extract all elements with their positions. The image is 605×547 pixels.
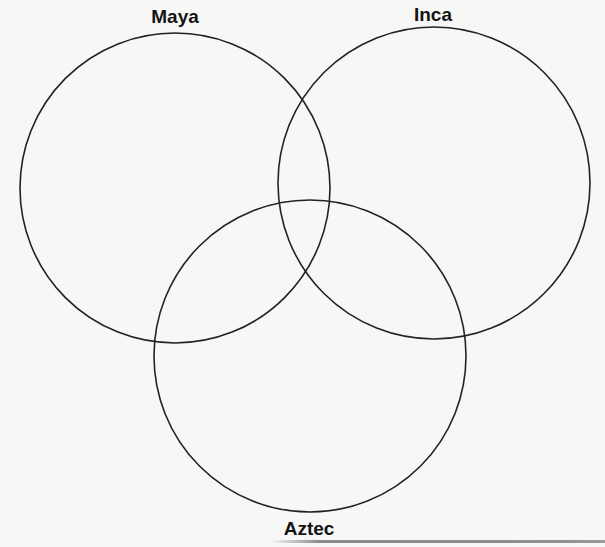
inca-label: Inca (414, 5, 452, 24)
aztec-circle (154, 200, 466, 512)
aztec-label: Aztec (284, 519, 335, 538)
page-bottom-edge (270, 540, 605, 543)
inca-circle (278, 27, 590, 339)
venn-diagram-page: Maya Inca Aztec (0, 0, 605, 547)
maya-label: Maya (151, 7, 199, 26)
maya-circle (20, 33, 330, 343)
venn-diagram (0, 0, 605, 547)
